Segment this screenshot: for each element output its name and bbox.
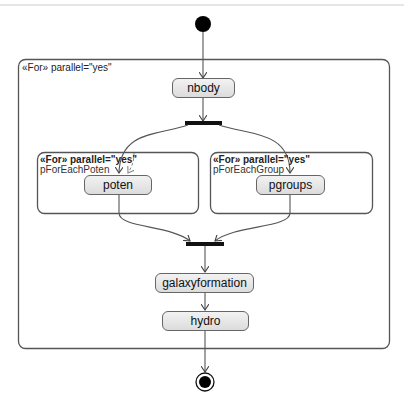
action-nbody[interactable]: nbody [172,78,235,98]
action-poten[interactable]: poten [84,175,152,195]
action-hydro[interactable]: hydro [162,311,249,331]
inner-region-pgroups-name: pForEachGroup [213,164,284,175]
action-galaxyformation[interactable]: galaxyformation [155,273,254,293]
join-bar [186,242,224,246]
fork-bar [185,121,222,125]
action-pgroups[interactable]: pgroups [256,175,325,195]
initial-node [195,16,211,32]
inner-region-poten-name: pForEachPoten [40,164,110,175]
outer-for-region [19,60,390,349]
outer-region-label: «For» parallel="yes" [22,62,112,73]
activity-diagram-canvas [0,0,404,406]
